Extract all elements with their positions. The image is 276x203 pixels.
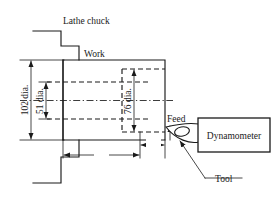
dimension-label-102-dia: 102 dia.: [20, 85, 30, 116]
text-backdrop-70: [94, 149, 109, 160]
label-tool: Tool: [215, 174, 233, 184]
lathe-chuck-upper-profile: [33, 31, 79, 60]
cutting-tool-shape: [166, 124, 199, 143]
lathe-chuck-lower-profile: [33, 140, 79, 183]
dimension-label-51-dia: 51 dia.: [35, 88, 45, 114]
lathe-setup-diagram: Lathe chuck Work Feed Tool Dynamometer 1…: [0, 0, 276, 203]
label-work: Work: [84, 49, 105, 59]
diagram-canvas: Lathe chuck Work Feed Tool Dynamometer 1…: [0, 0, 276, 203]
label-dynamometer: Dynamometer: [207, 131, 262, 141]
workpiece-outline: [63, 60, 165, 140]
label-feed: Feed: [167, 114, 186, 124]
text-backdrop-25: [146, 139, 161, 150]
dimension-label-76-dia: 76 dia.: [123, 88, 133, 114]
label-lathe-chuck: Lathe chuck: [63, 16, 110, 26]
